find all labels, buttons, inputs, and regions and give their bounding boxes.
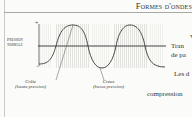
y-axis-label-line2: normale — [7, 42, 23, 47]
crest-caption-subtitle: (haute pression) — [15, 84, 46, 89]
body-text-line: de pa — [171, 51, 186, 59]
trough-caption-subtitle: (basse pression) — [93, 84, 124, 89]
minus-sign: − — [36, 63, 39, 69]
waveform-diagram — [0, 0, 192, 117]
body-text-line: Les d — [174, 70, 189, 78]
body-text-line: V — [190, 33, 192, 41]
body-text-line: compression — [147, 90, 182, 98]
trough-caption: Creux (basse pression) — [93, 79, 124, 90]
plus-sign: + — [35, 20, 38, 26]
crest-caption: Crête (haute pression) — [15, 79, 46, 90]
body-text-line: Tran — [171, 42, 184, 50]
y-axis-label: Pression normale — [7, 37, 23, 47]
